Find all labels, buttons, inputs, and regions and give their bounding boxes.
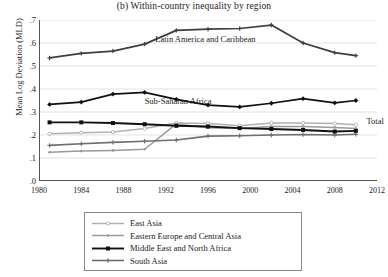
y-tick-label: .2 [30,131,36,140]
legend-swatch [91,243,125,254]
y-axis-ticks: .0.1.2.3.4.5.6.7 [14,0,36,277]
data-point [237,105,242,110]
legend-label: Eastern Europe and Central Asia [130,232,241,241]
data-point [106,222,109,225]
data-point [332,100,337,105]
data-point [111,121,115,125]
data-point [143,148,146,151]
legend-label: East Asia [130,219,162,228]
legend-label: Middle East and North Africa [130,244,231,253]
y-tick-label: .5 [30,62,36,71]
data-point [301,121,304,124]
x-tick-label: 1984 [73,186,89,195]
data-point [269,101,274,106]
data-point [79,100,84,105]
data-point [238,126,242,130]
legend-item[interactable]: Middle East and North Africa [91,242,295,255]
legend-item[interactable]: South Asia [91,255,295,268]
series-label-latin-america: Latin America and Caribbean [155,34,255,44]
data-point [47,102,52,107]
data-point [143,122,147,126]
data-point [269,127,273,131]
data-point [301,128,305,132]
data-point [333,122,336,125]
data-point [48,132,51,135]
y-tick-label: .6 [30,39,36,48]
data-point [80,150,83,153]
y-tick-label: .7 [30,16,36,25]
chart-title: (b) Within-country inequality by region [0,1,388,11]
series-line [50,124,356,152]
data-point [143,127,146,130]
x-tick-label: 1988 [116,186,132,195]
legend-item[interactable]: East Asia [91,217,295,230]
data-point [302,125,305,128]
x-tick-label: 1996 [200,186,216,195]
x-tick-label: 1980 [31,186,47,195]
data-point [111,92,116,97]
data-point [79,120,83,124]
data-point [111,130,114,133]
data-point [353,98,358,103]
x-axis-ticks: 198019841988199219962000200420082012 [0,186,388,200]
x-tick-label: 1992 [158,186,174,195]
x-tick-label: 2004 [285,186,301,195]
series-line [50,134,356,145]
data-point [80,131,83,134]
data-point [333,130,337,134]
data-point [270,121,273,124]
x-tick-label: 2008 [327,186,343,195]
data-point [333,126,336,129]
legend-item[interactable]: Eastern Europe and Central Asia [91,230,295,243]
legend-swatch [91,230,125,241]
y-tick-label: .4 [30,85,36,94]
data-point [48,151,51,154]
chart-legend: East AsiaEastern Europe and Central Asia… [84,212,302,271]
data-point [206,124,210,128]
legend-swatch [91,255,125,266]
x-tick-label: 2000 [242,186,258,195]
annotation-total: Total [366,116,383,126]
series-line [50,123,356,134]
legend-swatch [91,218,125,229]
series-south-asia [47,132,358,147]
data-point [107,234,110,237]
data-point [354,123,357,126]
y-tick-label: .0 [30,177,36,186]
data-point [106,246,110,250]
x-tick-label: 2012 [369,186,385,195]
data-point [48,120,52,124]
data-point [112,149,115,152]
data-point [354,129,358,133]
data-point [301,96,306,101]
series-label-sub-saharan-africa: Sub-Saharan Africa [145,96,212,106]
legend-label: South Asia [130,257,167,266]
data-point [142,90,147,95]
y-tick-label: .3 [30,108,36,117]
chart-figure: (b) Within-country inequality by region … [0,0,388,277]
y-tick-label: .1 [30,154,36,163]
data-point [174,124,178,128]
